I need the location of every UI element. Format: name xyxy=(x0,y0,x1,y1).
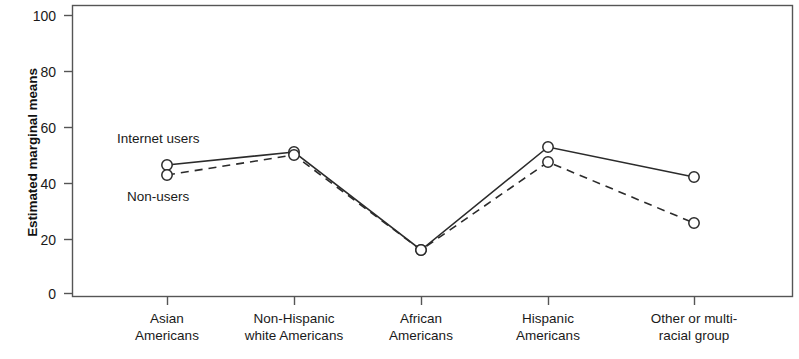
plot-area xyxy=(0,0,799,359)
data-point-internet-users-3 xyxy=(543,142,553,152)
data-point-internet-users-0 xyxy=(162,160,172,170)
data-point-non-users-0 xyxy=(162,170,172,180)
data-point-non-users-2 xyxy=(416,245,426,255)
data-point-non-users-1 xyxy=(289,150,299,160)
plot-frame xyxy=(73,6,793,297)
series-internet-users xyxy=(162,142,699,255)
y-axis-ticks xyxy=(64,16,73,294)
data-point-non-users-4 xyxy=(689,218,699,228)
data-point-internet-users-4 xyxy=(689,172,699,182)
x-axis-ticks xyxy=(168,297,695,306)
data-point-non-users-3 xyxy=(543,157,553,167)
line-chart: Estimated marginal means 100 80 60 40 20… xyxy=(0,0,799,359)
series-non-users xyxy=(162,150,699,255)
